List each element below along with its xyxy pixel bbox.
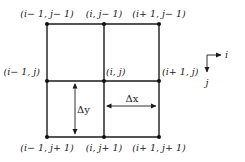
node-tl	[45, 22, 49, 26]
node-mr	[157, 79, 161, 83]
axis-label-j: j	[204, 77, 209, 88]
axis-label-i: i	[225, 49, 228, 60]
label-node-br: (i+ 1, j+ 1)	[132, 142, 186, 153]
grid-diagram: (i− 1, j− 1) (i, j− 1) (i+ 1, j− 1) (i− …	[0, 0, 245, 162]
node-bm	[102, 135, 106, 139]
axis-indicator: i j	[204, 49, 229, 88]
node-ml	[45, 79, 49, 83]
dx-label: Δx	[126, 93, 139, 104]
label-node-bm: (i, j+ 1)	[86, 142, 123, 153]
label-node-mm: (i, j)	[106, 66, 126, 77]
node-br	[157, 135, 161, 139]
node-mm	[102, 79, 106, 83]
label-node-bl: (i− 1, j+ 1)	[20, 142, 74, 153]
node-bl	[45, 135, 49, 139]
label-node-tr: (i+ 1, j− 1)	[132, 8, 186, 19]
dy-label: Δy	[77, 104, 90, 115]
label-node-tm: (i, j− 1)	[86, 8, 123, 19]
node-tm	[102, 22, 106, 26]
node-tr	[157, 22, 161, 26]
label-node-ml: (i− 1, j)	[4, 66, 41, 77]
label-node-tl: (i− 1, j− 1)	[20, 8, 74, 19]
label-node-mr: (i+ 1, j)	[162, 66, 199, 77]
